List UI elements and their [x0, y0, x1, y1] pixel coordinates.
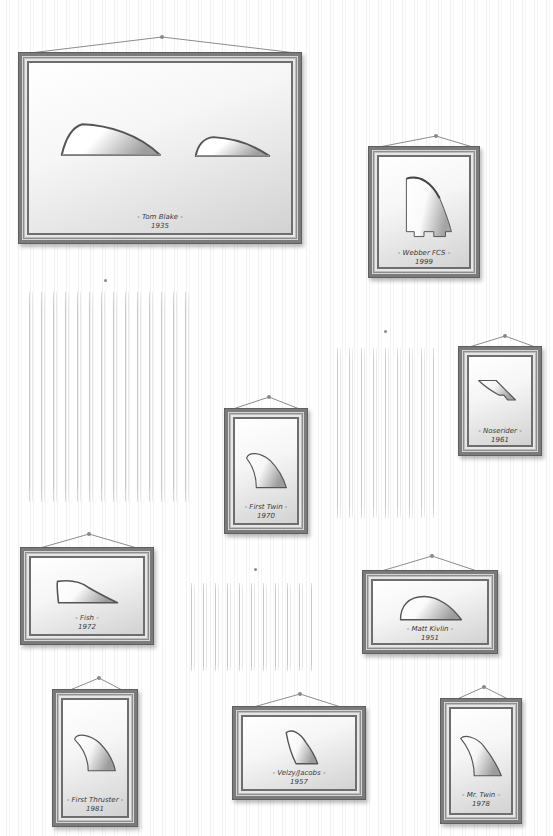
fin-year-label: 1951	[373, 634, 487, 643]
fin-year-label: 1970	[235, 512, 297, 521]
frame-webber-fcs[interactable]: - Webber FCS - 1999	[368, 146, 480, 278]
fin-name-label: - Mr. Twin -	[451, 791, 511, 800]
frame-canvas: - Webber FCS - 1999	[377, 155, 471, 269]
frame-canvas: - First Thruster - 1981	[61, 698, 129, 818]
fin-name-label: - First Thruster -	[63, 796, 127, 805]
frame-caption: - First Thruster - 1981	[63, 796, 127, 814]
frame-mr-twin[interactable]: - Mr. Twin - 1978	[440, 698, 522, 824]
fin-year-label: 1957	[243, 778, 355, 787]
fin-illustration-icon	[29, 63, 291, 233]
fin-year-label: 1935	[29, 222, 291, 231]
frame-caption: - Webber FCS - 1999	[379, 249, 469, 267]
fin-year-label: 1981	[63, 805, 127, 814]
frame-caption: - Noserider - 1961	[469, 427, 531, 445]
frame-canvas: - Mr. Twin - 1978	[449, 707, 513, 815]
frame-first-twin[interactable]: - First Twin - 1970	[224, 408, 308, 534]
frame-caption: - First Twin - 1970	[235, 503, 297, 521]
empty-slot-nail-1	[104, 279, 107, 282]
frame-caption: - Matt Kivlin - 1951	[373, 625, 487, 643]
frame-caption: - Fish - 1972	[31, 614, 143, 632]
frame-canvas: - Fish - 1972	[29, 556, 145, 636]
frame-first-thruster[interactable]: - First Thruster - 1981	[52, 689, 138, 827]
frame-caption: - Mr. Twin - 1978	[451, 791, 511, 809]
fin-name-label: - Tom Blake -	[29, 213, 291, 222]
frame-canvas: - Velzy/Jacobs - 1957	[241, 715, 357, 791]
fin-year-label: 1978	[451, 800, 511, 809]
frame-fish[interactable]: - Fish - 1972	[20, 547, 154, 645]
frame-caption: - Velzy/Jacobs - 1957	[243, 769, 355, 787]
frame-caption: - Tom Blake - 1935	[29, 213, 291, 231]
frame-noserider[interactable]: - Noserider - 1961	[458, 346, 542, 456]
fin-year-label: 1972	[31, 623, 143, 632]
frame-velzy-jacobs[interactable]: - Velzy/Jacobs - 1957	[232, 706, 366, 800]
fin-name-label: - Fish -	[31, 614, 143, 623]
fin-year-label: 1961	[469, 436, 531, 445]
fin-name-label: - Matt Kivlin -	[373, 625, 487, 634]
frame-canvas: - Noserider - 1961	[467, 355, 533, 447]
frame-canvas: - First Twin - 1970	[233, 417, 299, 525]
fin-name-label: - First Twin -	[235, 503, 297, 512]
frame-canvas: - Matt Kivlin - 1951	[371, 579, 489, 645]
empty-slot-nail-2	[384, 330, 387, 333]
empty-slot-nail-3	[254, 568, 257, 571]
fin-name-label: - Velzy/Jacobs -	[243, 769, 355, 778]
fin-name-label: - Noserider -	[469, 427, 531, 436]
empty-frame-slot-3[interactable]	[186, 583, 314, 671]
empty-frame-slot-2[interactable]	[332, 348, 436, 518]
empty-frame-slot-1[interactable]	[24, 292, 190, 502]
frame-canvas: - Tom Blake - 1935	[27, 61, 293, 235]
fin-name-label: - Webber FCS -	[379, 249, 469, 258]
frame-tom-blake[interactable]: - Tom Blake - 1935	[18, 52, 302, 244]
fin-year-label: 1999	[379, 258, 469, 267]
frame-matt-kivlin[interactable]: - Matt Kivlin - 1951	[362, 570, 498, 654]
